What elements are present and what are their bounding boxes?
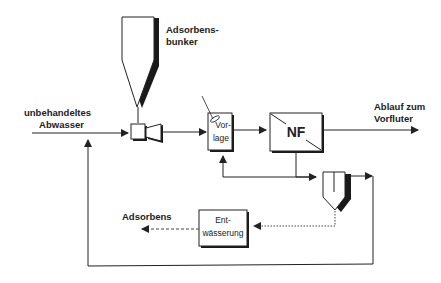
vorlage-label-line1: Vor- [208, 119, 234, 132]
output-label-line1: Ablauf zum [374, 101, 425, 113]
vorlage-label-line2: lage [208, 132, 234, 145]
bunker-label: Adsorbens- bunker [166, 24, 219, 48]
settling-tank [323, 172, 351, 212]
entwaesserung-label-line2: wässerung [199, 227, 247, 240]
output-label: Ablauf zum Vorfluter [374, 101, 425, 125]
nf-label: NF [270, 124, 322, 140]
input-label-line1: unbehandeltes [24, 107, 84, 119]
dosing-pump [131, 124, 163, 143]
entwaesserung-label: Ent- wässerung [199, 214, 247, 240]
input-label: unbehandeltes Abwasser [24, 107, 84, 131]
vorlage-label: Vor- lage [208, 119, 234, 145]
entwaesserung-label-line1: Ent- [199, 214, 247, 227]
output-label-line2: Vorfluter [374, 113, 425, 125]
bunker-label-line1: Adsorbens- [166, 24, 219, 36]
bunker-label-line2: bunker [166, 36, 219, 48]
input-label-line2: Abwasser [24, 119, 84, 131]
adsorbens-out-label: Adsorbens [122, 211, 172, 223]
adsorbens-bunker [122, 17, 159, 123]
